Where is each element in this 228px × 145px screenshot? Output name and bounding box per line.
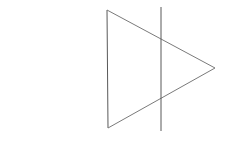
canvas-background [0, 0, 228, 145]
drawing-canvas [0, 0, 228, 145]
line-drawing-figure [0, 0, 228, 145]
